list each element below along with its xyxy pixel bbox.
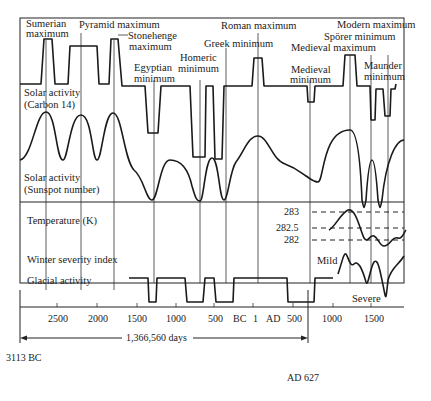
label-mild: Mild	[317, 255, 338, 266]
label-stonehenge-1: Stonehenge	[128, 30, 177, 41]
tick-1: 1	[253, 313, 258, 324]
label-egyptian-1: Egyptian	[134, 62, 173, 73]
label-pyramid: Pyramid maximum	[79, 19, 160, 30]
tick-ad: AD	[266, 313, 280, 324]
arrowhead-left-icon	[20, 336, 27, 341]
label-solar-c14-1: Solar activity	[24, 87, 81, 98]
tick-500-ad: 500	[287, 313, 302, 324]
label-solar-sunspot-2: (Sunspot number)	[24, 184, 100, 196]
label-maunder-1: Maunder	[364, 60, 402, 71]
label-egyptian-2: minimum	[134, 73, 175, 84]
tick-2000-bc: 2000	[88, 313, 108, 324]
label-solar-c14-2: (Carbon 14)	[24, 99, 76, 111]
label-severe: Severe	[352, 293, 381, 304]
temp-tick-282_5: 282.5	[276, 222, 299, 233]
label-maunder-2: minimum	[364, 71, 405, 82]
tick-1000-ad: 1000	[322, 313, 342, 324]
label-temperature: Temperature (K)	[27, 215, 98, 227]
tick-bc: BC	[233, 313, 247, 324]
label-modern: Modern maximum	[337, 19, 415, 30]
label-greek: Greek minimum	[204, 38, 273, 49]
span-start-label: 3113 BC	[6, 352, 42, 363]
x-axis-ticks	[57, 303, 371, 307]
tick-2500-bc: 2500	[48, 313, 68, 324]
span-end-label: AD 627	[287, 372, 319, 383]
arrowhead-right-icon	[301, 336, 308, 341]
label-sumerian-2: maximum	[26, 28, 69, 39]
temp-tick-282: 282	[284, 234, 299, 245]
tick-1500-ad: 1500	[364, 313, 384, 324]
temp-tick-283: 283	[284, 206, 299, 217]
glacial-curve	[129, 278, 333, 302]
label-medieval-min-2: minimum	[290, 74, 331, 85]
solar-climate-chart: 2500 2000 1500 1000 500 BC 1 AD 500 1000…	[0, 0, 431, 401]
label-stonehenge-2: maximum	[129, 41, 172, 52]
label-medieval-max: Medieval maximum	[291, 42, 376, 53]
label-homeric-1: Homeric	[180, 52, 217, 63]
tick-500-bc: 500	[208, 313, 223, 324]
span-days-label: 1,366,560 days	[126, 332, 187, 343]
label-winter-severity: Winter severity index	[27, 254, 118, 265]
tick-1000-bc: 1000	[166, 313, 186, 324]
label-glacial: Glacial activity	[27, 275, 92, 286]
label-roman: Roman maximum	[221, 20, 297, 31]
label-solar-sunspot-1: Solar activity	[24, 172, 81, 183]
label-homeric-2: minimum	[178, 63, 219, 74]
tick-1500-bc: 1500	[127, 313, 147, 324]
label-sporer: Spörer minimum	[324, 31, 395, 42]
